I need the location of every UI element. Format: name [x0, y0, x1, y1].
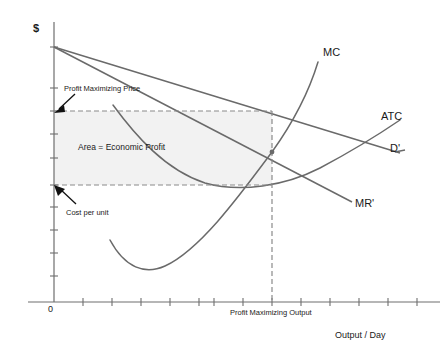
profit-maximizing-output-label: Profit Maximizing Output: [230, 308, 312, 317]
y-axis-label: $: [33, 22, 39, 34]
average-total-cost-label: ATC: [381, 110, 402, 122]
cost-annotation-arrow-icon: [54, 185, 76, 204]
origin-label: 0: [48, 304, 53, 314]
profit-maximizing-price-label: Profit Maximizing Price: [64, 84, 140, 93]
demand-curve-label: D': [390, 142, 400, 154]
marginal-revenue-label: MR': [355, 197, 374, 209]
x-axis-title: Output / Day: [335, 330, 386, 340]
chart-canvas: [0, 0, 447, 353]
economic-profit-area-label: Area = Economic Profit: [78, 142, 165, 152]
mc-mr-intersection-point: [270, 150, 275, 155]
economics-chart: $ 0 MC ATC D' MR' Profit Maximizing Pric…: [0, 0, 447, 353]
cost-per-unit-label: Cost per unit: [66, 208, 109, 217]
price-annotation-arrow-icon: [54, 94, 75, 113]
marginal-cost-label: MC: [323, 46, 340, 58]
